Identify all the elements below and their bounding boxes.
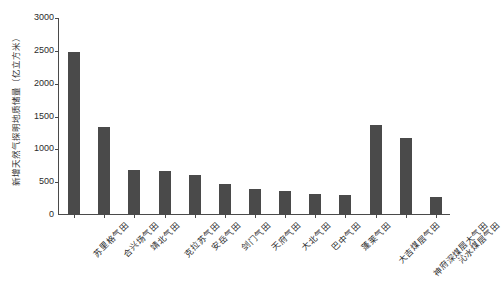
bar (400, 138, 412, 214)
x-axis-category-label: 大吉煤层气田 (396, 221, 441, 266)
bar (189, 175, 201, 214)
y-axis-tick-mark (55, 117, 59, 118)
y-axis-tick-label: 0 (24, 210, 54, 219)
y-axis-tick-mark (55, 51, 59, 52)
x-axis-category-label: 剑门气田 (240, 221, 272, 253)
y-axis-tick-label: 3000 (24, 13, 54, 22)
x-axis-category-labels: 苏里格气田合兴场气田靖北气田克拉苏气田安岳气田剑门气田天府气田大北气田巴中气田蓬… (58, 215, 450, 297)
bar (219, 184, 231, 214)
x-axis-category-label: 蓬莱气田 (361, 221, 393, 253)
y-axis-tick-label: 2000 (24, 79, 54, 88)
bar (279, 191, 291, 214)
x-axis-category-label: 天府气田 (271, 221, 303, 253)
x-axis-category-label: 大北气田 (301, 221, 333, 253)
bar (339, 195, 351, 214)
bars-layer (59, 18, 450, 214)
bar (68, 52, 80, 214)
bar (128, 170, 140, 214)
bar (309, 194, 321, 214)
y-axis-tick-label: 1500 (24, 112, 54, 121)
y-axis-tick-mark (55, 18, 59, 19)
y-axis-tick-mark (55, 182, 59, 183)
bar (249, 189, 261, 214)
y-axis-tick-label: 500 (24, 177, 54, 186)
x-axis-category-label: 神府深煤层大气田 (432, 221, 489, 278)
y-axis-tick-mark (55, 84, 59, 85)
bar (159, 171, 171, 214)
y-axis-tick-label: 2500 (24, 46, 54, 55)
y-axis-tick-mark (55, 149, 59, 150)
bar (430, 197, 442, 214)
x-axis-category-label: 巴中气田 (331, 221, 363, 253)
bar (98, 127, 110, 214)
y-axis-tick-label: 1000 (24, 144, 54, 153)
bar (370, 125, 382, 214)
plot-area (58, 18, 450, 215)
y-axis-tick-labels: 300025002000150010005000 (14, 0, 54, 297)
